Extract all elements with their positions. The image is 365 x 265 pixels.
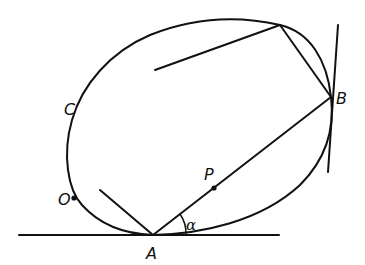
label-c: C (64, 100, 76, 119)
label-a: A (145, 244, 157, 263)
segment-from-a (100, 190, 153, 235)
label-b: B (336, 89, 347, 108)
point-p (211, 185, 216, 190)
segment-top-to-b (280, 25, 331, 97)
label-o: O (58, 190, 71, 209)
label-p: P (204, 165, 214, 184)
label-alpha: α (186, 216, 196, 234)
segment-top-inward (155, 25, 280, 70)
geometry-diagram: A B C O P α (0, 0, 365, 265)
point-o (71, 195, 76, 200)
